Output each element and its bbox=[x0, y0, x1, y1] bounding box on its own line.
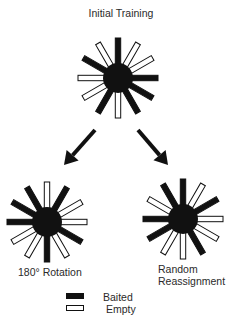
maze-arm-empty bbox=[44, 182, 49, 210]
arrow-shaft bbox=[73, 130, 95, 155]
maze-center-platform bbox=[32, 207, 62, 237]
random-label-line1: Random bbox=[158, 263, 225, 275]
initial-training-title: Initial Training bbox=[0, 7, 242, 19]
maze-arm-baited bbox=[130, 75, 158, 80]
maze-center-platform bbox=[103, 63, 133, 93]
maze-initial-training bbox=[78, 38, 158, 118]
legend-empty-swatch bbox=[67, 306, 84, 311]
maze-arm-baited bbox=[180, 179, 185, 207]
random-label-line2: Reassignment bbox=[158, 275, 225, 287]
arrow-to-random bbox=[138, 130, 168, 165]
maze-arm-empty bbox=[180, 231, 185, 259]
maze-arm-empty bbox=[78, 75, 106, 80]
random-reassignment-label: Random Reassignment bbox=[158, 263, 225, 287]
legend-baited-swatch bbox=[66, 293, 84, 299]
maze-arm-empty bbox=[59, 219, 87, 224]
maze-arm-empty bbox=[115, 90, 120, 118]
legend-baited-label: Baited bbox=[103, 291, 133, 303]
maze-arm-baited bbox=[44, 234, 49, 262]
maze-rotation-180 bbox=[7, 182, 87, 262]
maze-arm-empty bbox=[195, 216, 223, 221]
maze-arm-baited bbox=[143, 216, 171, 221]
legend-swatches bbox=[66, 293, 84, 311]
maze-random-reassignment bbox=[143, 179, 223, 259]
maze-group bbox=[7, 38, 223, 262]
legend-empty-label: Empty bbox=[106, 303, 136, 315]
arrow-shaft bbox=[138, 130, 160, 155]
maze-arm-baited bbox=[7, 219, 35, 224]
rotation-label: 180° Rotation bbox=[18, 266, 82, 278]
arrow-to-rotation bbox=[64, 130, 95, 165]
arrow-group bbox=[64, 130, 168, 165]
maze-arm-baited bbox=[115, 38, 120, 66]
maze-center-platform bbox=[168, 204, 198, 234]
